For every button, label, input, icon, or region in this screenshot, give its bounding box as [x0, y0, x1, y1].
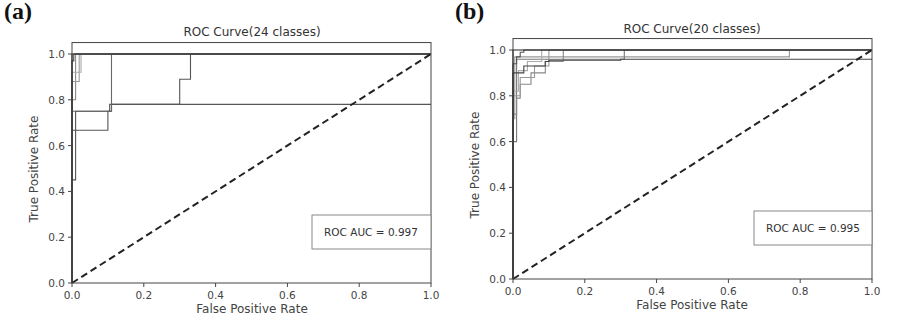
chart-title: ROC Curve(24 classes)	[183, 25, 320, 39]
x-axis-label: False Positive Rate	[636, 298, 748, 312]
x-tick-label: 0.2	[135, 289, 152, 301]
y-axis-label: True Positive Rate	[27, 116, 41, 224]
y-tick-label: 0.4	[48, 185, 65, 197]
y-tick-label: 1.0	[489, 44, 506, 56]
legend-box: ROC AUC = 0.997	[312, 215, 431, 249]
y-tick-label: 0.8	[489, 90, 506, 102]
x-tick-label: 0.8	[351, 289, 368, 301]
roc-series-class-b6	[513, 59, 872, 279]
y-tick-label: 0.2	[489, 227, 506, 239]
legend-box: ROC AUC = 0.995	[754, 211, 872, 245]
y-tick-label: 1.0	[48, 48, 65, 60]
roc-chart-b: ROC Curve(20 classes) 0.00.20.40.60.81.0…	[468, 22, 880, 312]
y-tick-label: 0.0	[48, 277, 65, 289]
x-tick-label: 1.0	[423, 289, 440, 301]
x-tick-label: 1.0	[864, 285, 881, 297]
x-tick-label: 0.0	[64, 289, 81, 301]
y-tick-label: 0.2	[48, 231, 65, 243]
roc-chart-a: ROC Curve(24 classes) 0.00.20.40.60.81.0…	[27, 25, 439, 316]
legend-auc-text: ROC AUC = 0.997	[324, 226, 418, 238]
legend-auc-text: ROC AUC = 0.995	[766, 222, 860, 234]
y-tick-label: 0.4	[489, 181, 506, 193]
y-axis-label: True Positive Rate	[468, 112, 482, 220]
x-tick-label: 0.4	[648, 285, 665, 297]
y-tick-label: 0.6	[48, 140, 65, 152]
x-tick-label: 0.4	[207, 289, 224, 301]
x-axis-label: False Positive Rate	[196, 302, 308, 316]
y-tick-label: 0.8	[48, 94, 65, 106]
y-tick-label: 0.6	[489, 136, 506, 148]
x-tick-label: 0.2	[576, 285, 593, 297]
x-tick-label: 0.8	[792, 285, 809, 297]
x-tick-label: 0.6	[279, 289, 296, 301]
y-tick-label: 0.0	[489, 273, 506, 285]
chart-title: ROC Curve(20 classes)	[623, 22, 760, 36]
figure-canvas: ROC Curve(24 classes) 0.00.20.40.60.81.0…	[0, 0, 905, 334]
x-tick-label: 0.0	[505, 285, 522, 297]
x-tick-label: 0.6	[720, 285, 737, 297]
roc-series-class-a1	[72, 104, 431, 283]
